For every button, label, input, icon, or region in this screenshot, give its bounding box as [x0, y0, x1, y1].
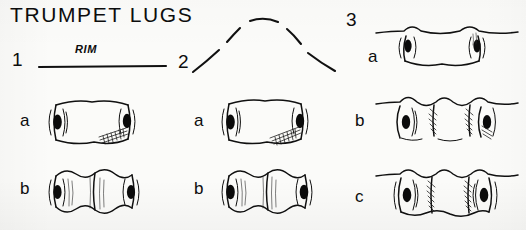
figure-lug-2a	[215, 92, 315, 152]
figure-lug-3c	[374, 158, 520, 224]
rim-label-group-1: RIM	[75, 44, 97, 55]
variant-letter-1a: a	[20, 112, 29, 129]
rim-line-group-1	[38, 60, 168, 74]
variant-letter-3c: c	[355, 188, 364, 205]
group-number-3: 3	[346, 10, 357, 29]
rim-arch-group-2	[190, 14, 338, 76]
variant-letter-2a: a	[194, 112, 203, 129]
figure-lug-2b	[215, 160, 325, 222]
illustration-plate: TRUMPET LUGS 1 RIM a	[0, 0, 526, 230]
figure-lug-3b	[374, 84, 520, 146]
group-number-1: 1	[12, 50, 23, 69]
figure-lug-1a	[42, 92, 142, 152]
figure-lug-1b	[42, 160, 152, 222]
variant-letter-1b: b	[20, 180, 29, 197]
group-number-2: 2	[178, 52, 189, 71]
variant-letter-2b: b	[194, 180, 203, 197]
figure-lug-3a	[374, 14, 520, 72]
variant-letter-3b: b	[355, 112, 364, 129]
page-title: TRUMPET LUGS	[10, 4, 193, 25]
